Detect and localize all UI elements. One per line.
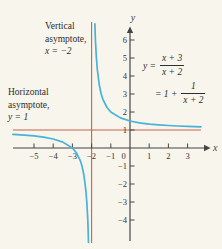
graph-canvas: xy−5−4−3−2−11230654321−1−2−3−4 — [0, 0, 222, 249]
y-tick-label: 2 — [123, 107, 127, 117]
x-tick-label: −5 — [29, 151, 38, 161]
x-tick-label: −4 — [49, 151, 59, 161]
y-tick-label: 3 — [123, 89, 127, 99]
horizontal-asymptote-label: Horizontal asymptote, y = 1 — [8, 86, 49, 124]
horizontal-asymptote-label-line2: asymptote, — [8, 99, 49, 112]
horizontal-asymptote-equation: y = 1 — [8, 111, 49, 124]
vertical-asymptote-label: Vertical asymptote, x = −2 — [45, 20, 86, 58]
y-axis-arrow-icon — [127, 27, 133, 34]
fraction-denominator-2: x + 2 — [181, 94, 205, 106]
fraction-denominator: x + 2 — [160, 66, 184, 78]
equation-lhs-2: = 1 + — [155, 89, 177, 99]
fraction-numerator-2: 1 — [181, 81, 205, 94]
y-tick-label: −4 — [118, 215, 128, 225]
x-tick-label: 1 — [147, 151, 151, 161]
equation-lhs: y = — [143, 61, 156, 71]
x-axis-label: x — [212, 142, 218, 153]
y-tick-label: 4 — [123, 71, 128, 81]
vertical-asymptote-label-line2: asymptote, — [45, 33, 86, 46]
function-equation: y = x + 3 x + 2 = 1 + 1 x + 2 — [143, 53, 205, 106]
y-tick-label: −2 — [118, 179, 127, 189]
y-axis-label: y — [130, 12, 136, 23]
y-tick-label: 1 — [123, 125, 127, 135]
fraction-numerator: x + 3 — [160, 53, 184, 66]
function-equation-line1: y = x + 3 x + 2 — [143, 53, 205, 78]
x-tick-label: 2 — [166, 151, 170, 161]
y-tick-label: −3 — [118, 197, 127, 207]
y-tick-label: −1 — [118, 161, 127, 171]
y-tick-label: 6 — [123, 35, 127, 45]
x-tick-label: −1 — [106, 151, 115, 161]
function-graph-figure: xy−5−4−3−2−11230654321−1−2−3−4 Vertical … — [0, 0, 222, 249]
vertical-asymptote-label-line1: Vertical — [45, 20, 86, 33]
x-tick-label: 3 — [185, 151, 189, 161]
x-axis-arrow-icon — [204, 145, 211, 151]
equation-fraction-1: x + 3 x + 2 — [160, 53, 184, 78]
origin-label: 0 — [121, 151, 125, 161]
vertical-asymptote-equation: x = −2 — [45, 45, 86, 58]
function-equation-line2: = 1 + 1 x + 2 — [155, 81, 205, 106]
equation-fraction-2: 1 x + 2 — [181, 81, 205, 106]
y-tick-label: 5 — [123, 53, 127, 63]
x-tick-label: −2 — [87, 151, 96, 161]
horizontal-asymptote-label-line1: Horizontal — [8, 86, 49, 99]
